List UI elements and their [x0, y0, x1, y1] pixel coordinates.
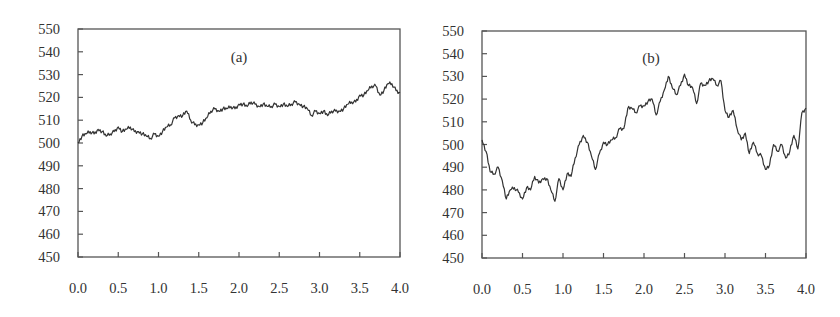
- y-tick-label: 500: [38, 135, 60, 151]
- x-tick-labels: 0.00.51.01.52.02.53.03.54.0: [473, 281, 815, 297]
- panel-label: (a): [231, 49, 248, 66]
- y-tick-label: 530: [38, 67, 60, 83]
- x-tick-label: 3.0: [310, 280, 328, 296]
- x-tick-label: 0.5: [109, 280, 127, 296]
- x-tick-label: 2.5: [675, 281, 693, 297]
- x-tick-label: 1.0: [149, 280, 167, 296]
- x-tick-label: 2.5: [270, 280, 288, 296]
- x-tick-label: 4.0: [391, 280, 409, 296]
- x-tick-label: 0.5: [513, 281, 531, 297]
- y-tick-label: 460: [38, 226, 60, 242]
- y-tick-labels: 550540530520510500490480470460450: [442, 23, 464, 266]
- data-line: [482, 74, 806, 201]
- y-tick-label: 500: [442, 137, 464, 153]
- y-tick-label: 550: [442, 23, 464, 39]
- y-tick-label: 490: [442, 159, 464, 175]
- chart-panel-a: 550540530520510500490480470460450 0.00.5…: [0, 0, 420, 317]
- x-tick-label: 2.0: [635, 281, 653, 297]
- y-tick-label: 530: [442, 68, 464, 84]
- x-tick-label: 1.5: [190, 280, 208, 296]
- x-tick-label: 3.5: [756, 281, 774, 297]
- chart-a-svg: 550540530520510500490480470460450 0.00.5…: [0, 0, 420, 317]
- y-tick-label: 520: [38, 89, 60, 105]
- x-tick-label: 0.0: [473, 281, 491, 297]
- x-tick-label: 0.0: [69, 280, 87, 296]
- y-tick-label: 490: [38, 158, 60, 174]
- y-tick-label: 460: [442, 227, 464, 243]
- panel-label: (b): [642, 50, 660, 67]
- y-tick-label: 510: [442, 114, 464, 130]
- y-tick-label: 480: [442, 182, 464, 198]
- y-tick-label: 520: [442, 91, 464, 107]
- y-tick-label: 540: [38, 44, 60, 60]
- y-tick-labels: 550540530520510500490480470460450: [38, 21, 60, 265]
- chart-panel-b: 550540530520510500490480470460450 0.00.5…: [420, 0, 840, 317]
- y-tick-label: 470: [38, 203, 60, 219]
- y-tick-label: 470: [442, 205, 464, 221]
- y-tick-label: 450: [38, 249, 60, 265]
- y-tick-label: 540: [442, 46, 464, 62]
- x-tick-label: 1.0: [554, 281, 572, 297]
- x-tick-label: 3.0: [716, 281, 734, 297]
- chart-b-svg: 550540530520510500490480470460450 0.00.5…: [420, 0, 840, 317]
- x-tick-label: 1.5: [594, 281, 612, 297]
- x-tick-label: 3.5: [351, 280, 369, 296]
- y-tick-label: 450: [442, 250, 464, 266]
- y-tick-label: 480: [38, 181, 60, 197]
- data-line: [78, 82, 400, 143]
- x-tick-label: 2.0: [230, 280, 248, 296]
- x-tick-labels: 0.00.51.01.52.02.53.03.54.0: [69, 280, 409, 296]
- y-tick-label: 510: [38, 112, 60, 128]
- y-tick-label: 550: [38, 21, 60, 37]
- x-tick-label: 4.0: [797, 281, 815, 297]
